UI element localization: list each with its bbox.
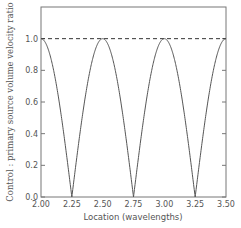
plot-area: 0.00.20.40.60.81.02.002.252.502.753.003.…	[25, 7, 235, 209]
x-tick-label: 2.75	[125, 200, 143, 209]
y-tick-label: 1.0	[25, 35, 38, 44]
x-tick-label: 2.00	[32, 200, 50, 209]
chart: 0.00.20.40.60.81.02.002.252.502.753.003.…	[0, 0, 241, 228]
x-tick-label: 2.25	[63, 200, 81, 209]
x-tick-label: 2.50	[94, 200, 112, 209]
y-tick-label: 0.8	[25, 66, 38, 75]
ratio-curve	[41, 39, 226, 197]
y-tick-label: 0.4	[25, 130, 38, 139]
y-axis-label: Control : primary source volume velocity…	[5, 2, 15, 201]
x-axis-label: Location (wavelengths)	[83, 212, 182, 222]
y-tick-label: 0.6	[25, 98, 38, 107]
y-tick-label: 0.2	[25, 161, 38, 170]
x-tick-label: 3.25	[186, 200, 204, 209]
x-tick-label: 3.50	[217, 200, 235, 209]
x-tick-label: 3.00	[155, 200, 173, 209]
